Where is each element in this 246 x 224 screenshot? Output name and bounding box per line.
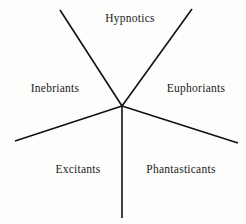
ray-left (15, 106, 122, 141)
label-hypnotics: Hypnotics (105, 13, 155, 25)
label-phantasticants: Phantasticants (146, 164, 215, 176)
ray-group (0, 0, 246, 224)
label-inebriants: Inebriants (31, 83, 79, 95)
label-excitants: Excitants (55, 164, 100, 176)
label-euphoriants: Euphoriants (167, 83, 225, 95)
diagram-canvas: HypnoticsInebriantsEuphoriantsExcitantsP… (0, 0, 246, 224)
ray-right (122, 106, 238, 143)
